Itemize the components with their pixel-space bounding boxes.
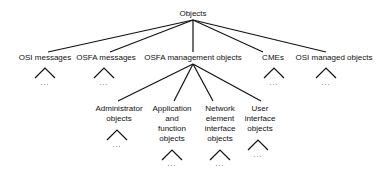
ellipsis: ... <box>113 141 122 148</box>
ellipsis: ... <box>100 79 109 86</box>
label-line: Application <box>152 104 191 114</box>
node-cmes: CMEs <box>262 53 284 63</box>
ellipsis: ... <box>216 160 225 167</box>
ellipsis: ... <box>41 79 50 86</box>
node-osfa-messages: OSFA messages <box>76 53 136 63</box>
label-line: objects <box>152 134 191 144</box>
label-line: User <box>245 104 276 114</box>
node-administrator-objects: Administrator objects <box>95 104 142 124</box>
edge-mgmt-application <box>174 64 193 101</box>
label-line: interface <box>205 124 236 134</box>
subtree-icon <box>316 68 336 78</box>
label-line: Network <box>205 104 236 114</box>
label-line: and <box>152 114 191 124</box>
subtree-icon <box>264 68 284 78</box>
node-network-element-interface-objects: Network element interface objects <box>205 104 236 144</box>
label-line: element <box>205 114 236 124</box>
ellipsis: ... <box>168 160 177 167</box>
subtree-icon <box>94 68 114 78</box>
subtree-icon <box>210 150 230 160</box>
label-line: objects <box>245 124 276 134</box>
subtree-icon <box>107 130 127 140</box>
label-line: Administrator <box>95 104 142 114</box>
label-line: interface <box>245 114 276 124</box>
ellipsis: ... <box>322 79 331 86</box>
label-line: objects <box>95 114 142 124</box>
root-node: Objects <box>179 9 206 19</box>
node-osfa-management-objects: OSFA management objects <box>144 53 241 63</box>
node-osi-managed-objects: OSI managed objects <box>296 53 373 63</box>
subtree-icon <box>162 150 182 160</box>
edge-mgmt-administrator <box>118 64 193 101</box>
node-application-function-objects: Application and function objects <box>152 104 191 144</box>
subtree-icon <box>35 68 55 78</box>
node-osi-messages: OSI messages <box>19 53 71 63</box>
edge-root-cmes <box>193 20 263 52</box>
label-line: objects <box>205 134 236 144</box>
ellipsis: ... <box>254 151 263 158</box>
label-line: function <box>152 124 191 134</box>
subtree-icon <box>248 140 268 150</box>
ellipsis: ... <box>270 79 279 86</box>
edge-root-osi-messages <box>48 20 193 52</box>
node-user-interface-objects: User interface objects <box>245 104 276 134</box>
edge-root-osi-managed <box>193 20 326 52</box>
